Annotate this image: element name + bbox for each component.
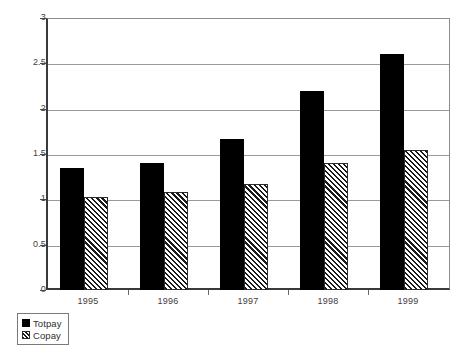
bar-copay	[244, 184, 268, 290]
bar-totpay	[220, 139, 244, 290]
bar-copay	[404, 150, 428, 290]
x-axis-tick-mark	[368, 290, 369, 295]
legend-label-totpay: Totpay	[33, 318, 62, 329]
x-axis-tick-mark	[128, 290, 129, 295]
legend-swatch-totpay-icon	[22, 319, 30, 327]
bar-copay	[164, 192, 188, 290]
x-axis-tick-label: 1997	[208, 296, 288, 306]
bar-chart: 32.521.510.50 19951996199719981999 Totpa…	[0, 0, 468, 358]
bar-totpay	[140, 163, 164, 290]
x-axis-tick-label: 1996	[128, 296, 208, 306]
bar-copay	[324, 163, 348, 290]
bar-copay	[84, 197, 108, 290]
x-axis-tick-label: 1999	[368, 296, 448, 306]
chart-legend: Totpay Copay	[17, 313, 69, 345]
bars-layer	[48, 18, 448, 290]
x-axis-tick-label: 1995	[48, 296, 128, 306]
x-axis-tick-label: 1998	[288, 296, 368, 306]
x-axis-tick-mark	[208, 290, 209, 295]
legend-item-copay: Copay	[22, 329, 62, 341]
bar-totpay	[380, 54, 404, 290]
y-axis-tick-mark	[40, 290, 46, 291]
legend-label-copay: Copay	[33, 330, 61, 341]
bar-totpay	[60, 168, 84, 290]
legend-swatch-copay-icon	[22, 331, 30, 339]
x-axis-tick-mark	[288, 290, 289, 295]
y-axis: 32.521.510.50	[0, 0, 46, 358]
legend-item-totpay: Totpay	[22, 317, 62, 329]
bar-totpay	[300, 91, 324, 290]
